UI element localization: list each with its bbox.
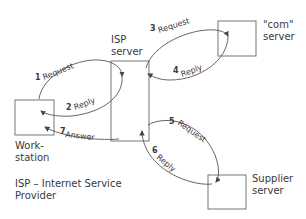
isp-server-label-line2: server <box>111 46 143 58</box>
arrow-1-request <box>39 60 122 99</box>
com-server-box <box>218 21 256 56</box>
workstation-box <box>15 100 54 135</box>
workstation-label-line1: Work- <box>15 140 44 152</box>
supplier-server-box <box>208 175 246 209</box>
arrow-6-number: 6 <box>152 146 158 155</box>
workstation-label-line2: station <box>15 152 49 164</box>
arrow-4-number: 4 <box>173 66 179 75</box>
arrow-5-label: Request <box>176 118 208 144</box>
com-server-label-line1: "com" <box>263 19 294 31</box>
arrow-5-number: 5 <box>169 117 175 126</box>
legend-line2: Provider <box>15 190 56 202</box>
arrow-2-number: 2 <box>66 103 72 112</box>
isp-server-box <box>111 61 149 141</box>
arrow-1-label: Request <box>41 61 75 82</box>
supplier-server-label-line1: Supplier <box>252 173 293 185</box>
legend-line1: ISP – Internet Service <box>15 178 122 190</box>
com-server-label-line2: server <box>263 31 295 43</box>
arrow-3-label: Request <box>157 16 191 35</box>
supplier-server-label-line2: server <box>252 185 284 197</box>
arrow-3-number: 3 <box>150 24 156 33</box>
arrow-1-number: 1 <box>35 73 41 82</box>
isp-server-label-line1: ISP <box>111 34 126 46</box>
arrow-7-label: Answer <box>65 130 96 142</box>
arrow-2-reply <box>41 76 122 116</box>
arrow-2-label: Reply <box>73 96 97 112</box>
